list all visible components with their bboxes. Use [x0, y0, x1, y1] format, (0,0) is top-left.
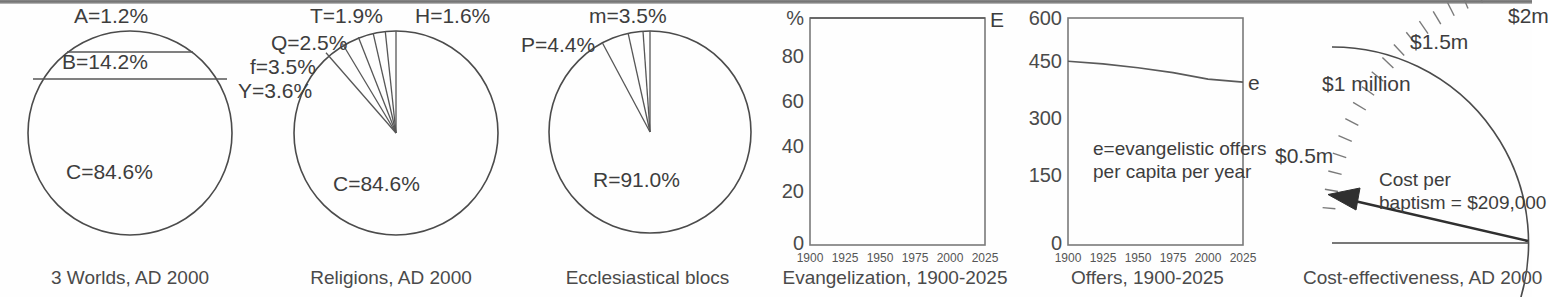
gauge-label-1-5m: $1.5m	[1410, 30, 1468, 54]
offers-plot-frame	[1068, 18, 1243, 245]
panel-ecclesiastical-blocs: m=3.5% P=4.4% R=91.0% Ecclesiastical blo…	[525, 0, 770, 297]
gauge-label-1-million: $1 million	[1322, 72, 1411, 96]
evangelization-chart: % 80 60 40 20 0 1900 1925 1950 1975 2000…	[770, 0, 1020, 270]
panel-cost-effectiveness: $0.5m $1 million $1.5m $2m Cost per bapt…	[1280, 0, 1532, 297]
xtick-1975: 1975	[902, 251, 929, 265]
label-religions-q: Q=2.5%	[271, 31, 347, 55]
offers-series-e	[1068, 61, 1243, 82]
label-religions-h: H=1.6%	[415, 4, 490, 28]
ytick-300: 300	[1029, 107, 1062, 129]
ytick-80: 80	[782, 45, 804, 67]
xtick-1975: 1975	[1160, 251, 1187, 265]
three-worlds-diagram	[0, 0, 260, 260]
evangelization-plot-frame	[810, 18, 985, 245]
caption-cost-effectiveness: Cost-effectiveness, AD 2000	[1303, 267, 1552, 289]
label-religions-t: T=1.9%	[310, 4, 383, 28]
xtick-2025: 2025	[1230, 251, 1257, 265]
caption-religions: Religions, AD 2000	[265, 267, 517, 289]
label-religions-y: Y=3.6%	[238, 79, 312, 103]
xtick-1950: 1950	[867, 251, 894, 265]
blocs-edge-p	[603, 43, 650, 132]
ytick-600: 600	[1029, 7, 1062, 29]
offers-note-line1: e=evangelistic offers	[1093, 137, 1266, 161]
gauge-label-0-5m: $0.5m	[1275, 144, 1333, 168]
label-blocs-m: m=3.5%	[589, 4, 667, 28]
ytick-450: 450	[1029, 50, 1062, 72]
xtick-1925: 1925	[832, 251, 859, 265]
slice-edge-y	[326, 53, 396, 133]
label-three-worlds-a: A=1.2%	[74, 4, 148, 28]
ytick-100: %	[786, 7, 804, 29]
caption-ecclesiastical-blocs: Ecclesiastical blocs	[525, 267, 770, 289]
caption-three-worlds: 3 Worlds, AD 2000	[0, 267, 260, 289]
xtick-1950: 1950	[1125, 251, 1152, 265]
ytick-40: 40	[782, 135, 804, 157]
ytick-60: 60	[782, 90, 804, 112]
label-three-worlds-c: C=84.6%	[66, 160, 153, 184]
cost-effectiveness-gauge	[1280, 0, 1532, 270]
xtick-2000: 2000	[937, 251, 964, 265]
xtick-1900: 1900	[1055, 251, 1082, 265]
ytick-20: 20	[782, 180, 804, 202]
caption-offers: Offers, 1900-2025	[1020, 267, 1275, 289]
xtick-1900: 1900	[797, 251, 824, 265]
label-blocs-r: R=91.0%	[593, 168, 680, 192]
gauge-note-line1: Cost per	[1379, 168, 1451, 192]
label-religions-f: f=3.5%	[250, 55, 316, 79]
label-blocs-p: P=4.4%	[521, 33, 595, 57]
gauge-note-line2: baptism = $209,000	[1379, 191, 1546, 215]
series-label-offers: e	[1248, 71, 1260, 95]
panel-three-worlds: A=1.2% B=14.2% C=84.6% 3 Worlds, AD 2000	[0, 0, 260, 297]
xtick-2000: 2000	[1195, 251, 1222, 265]
series-label-evangelization: E	[990, 8, 1004, 32]
xtick-1925: 1925	[1090, 251, 1117, 265]
offers-chart: 600 450 300 150 0 1900 1925 1950 1975 20…	[1020, 0, 1275, 270]
label-religions-c: C=84.6%	[333, 172, 420, 196]
gauge-label-2m: $2m	[1508, 4, 1549, 28]
offers-note-line2: per capita per year	[1093, 160, 1251, 184]
panel-offers: 600 450 300 150 0 1900 1925 1950 1975 20…	[1020, 0, 1275, 297]
panel-evangelization: % 80 60 40 20 0 1900 1925 1950 1975 2000…	[770, 0, 1020, 297]
xtick-2025: 2025	[972, 251, 999, 265]
caption-evangelization: Evangelization, 1900-2025	[770, 267, 1020, 289]
panel-religions: T=1.9% H=1.6% Q=2.5% f=3.5% Y=3.6% C=84.…	[265, 0, 517, 297]
label-three-worlds-b: B=14.2%	[62, 50, 148, 74]
ytick-150: 150	[1029, 164, 1062, 186]
